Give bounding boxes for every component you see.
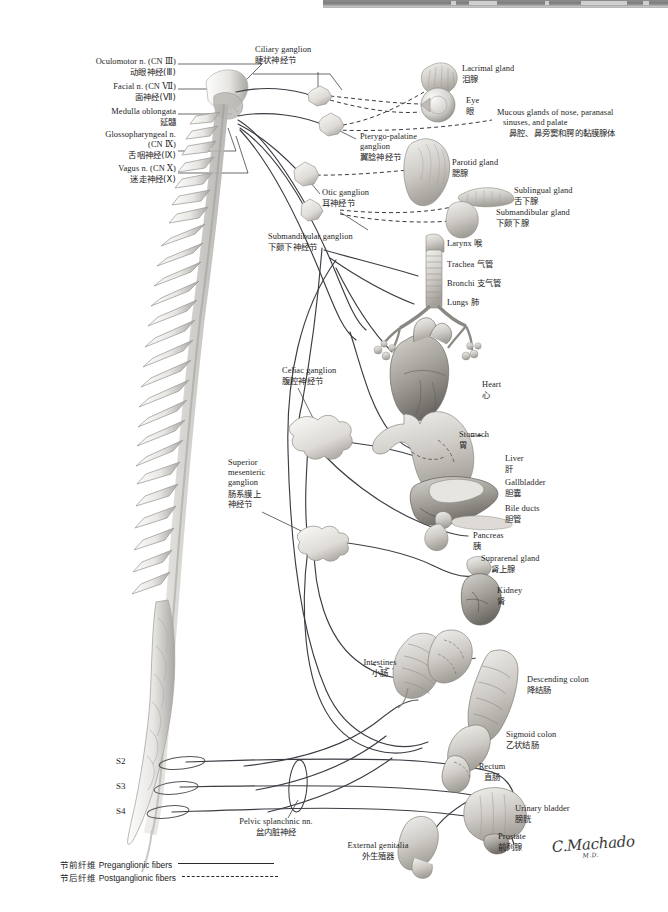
label-trachea-zh: 气管 [477,259,493,269]
label-heart-zh: 心 [482,390,501,400]
label-prostate: Prostate 前列腺 [498,832,526,852]
label-submandibular-ganglion: Submandibular ganglion 下颇下神经节 [268,232,353,252]
label-liver: Liver 肝 [505,454,524,474]
label-facial-nerve-en: Facial n. (CN Ⅶ) [30,82,176,92]
legend-postganglionic-en: Postganglionic fibers [99,873,176,883]
label-sublingual-gland-en: Sublingual gland [514,186,573,196]
label-superior-mesenteric-ganglion-en2: mesenteric [228,468,265,478]
label-stomach: Stomach 胃 [459,430,489,450]
celiac-ganglion-shape [289,415,352,459]
ciliary-ganglion-shape [308,86,332,106]
label-medulla-oblongata-zh: 延髓 [30,117,176,127]
label-gallbladder: Gallbladder 胆囊 [505,478,546,498]
label-trachea-line: Trachea 气管 [447,259,493,270]
label-lungs-line: Lungs 肺 [447,297,479,308]
label-sublingual-gland-zh: 舌下腺 [514,196,573,206]
label-descending-colon-zh: 降结肠 [527,685,589,695]
label-pterygopalatine-ganglion-en2: ganglion [360,142,417,152]
label-pelvic-splanchnic-nerves-en: Pelvic splanchnic nn. [224,817,328,827]
label-prostate-en: Prostate [498,832,526,842]
label-superior-mesenteric-ganglion-zh1: 肠系膜上 [228,489,265,499]
label-bronchi-en: Bronchi [447,279,475,288]
submandibular-ganglion-shape [301,199,323,221]
label-rectum-en: Rectum [468,762,516,772]
legend-solid-line-sample [178,863,274,864]
label-glossopharyngeal-nerve-zh: 舌咽神经(Ⅸ) [26,150,176,160]
eye-illustration [421,88,455,122]
label-larynx-en: Larynx [447,239,472,248]
label-glossopharyngeal-nerve: Glossopharyngeal n. (CN Ⅸ) 舌咽神经(Ⅸ) [26,130,176,161]
label-lungs-zh: 肺 [471,297,479,307]
label-kidney-en: Kidney [497,586,522,596]
label-submandibular-ganglion-en: Submandibular ganglion [268,232,353,242]
label-heart: Heart 心 [482,380,501,400]
legend: 节前纤维 Preganglionic fibers 节后纤维 Postgangl… [60,857,360,883]
label-medulla-oblongata-en: Medulla oblongata [30,107,176,117]
label-gallbladder-zh: 胆囊 [505,488,546,498]
label-submandibular-gland: Submandibular gland 下颇下腺 [496,208,570,228]
label-pelvic-splanchnic-nerves: Pelvic splanchnic nn. 盆内脏神经 [224,817,328,837]
label-suprarenal-gland-zh: 肾上腺 [491,564,540,574]
label-bile-ducts: Bile ducts 胆管 [505,504,540,524]
label-oculomotor-nerve: Oculomotor n. (CN Ⅲ) 动眼神经(Ⅲ) [30,57,176,77]
label-ciliary-ganglion-en: Ciliary ganglion [255,45,311,55]
figure-page: Oculomotor n. (CN Ⅲ) 动眼神经(Ⅲ) Facial n. (… [0,0,668,912]
label-rectum-zh: 直肠 [468,772,516,782]
label-sigmoid-colon-zh: 乙状结肠 [506,740,556,750]
label-lungs-en: Lungs [447,298,468,307]
label-mucous-glands: Mucous glands of nose, paranasal sinuses… [497,108,665,139]
label-otic-ganglion-zh: 耳神经节 [322,198,369,208]
label-eye: Eye 眼 [466,96,479,116]
label-pancreas-zh: 胰 [473,541,504,551]
label-trachea: Trachea 气管 [447,259,493,270]
label-superior-mesenteric-ganglion: Superior mesenteric ganglion 肠系膜上 神经节 [228,458,265,509]
label-otic-ganglion-en: Otic ganglion [322,188,369,198]
label-stomach-zh: 胃 [459,440,489,450]
legend-dashed-line-sample [182,876,278,877]
label-kidney-zh: 肾 [497,596,522,606]
organs-group [373,63,527,879]
label-intestines-en: Intestines [352,658,408,668]
label-sigmoid-colon-en: Sigmoid colon [506,730,556,740]
otic-ganglion-shape [294,162,319,186]
label-vagus-nerve-zh: 迷走神经(Ⅹ) [30,174,176,184]
label-submandibular-ganglion-zh: 下颇下神经节 [268,242,353,252]
label-bronchi: Bronchi 支气管 [447,278,501,289]
label-ciliary-ganglion-zh: 睫状神经节 [255,55,311,65]
label-otic-ganglion: Otic ganglion 耳神经节 [322,188,369,208]
label-sublingual-gland: Sublingual gland 舌下腺 [514,186,573,206]
legend-preganglionic-text: 节前纤维 Preganglionic fibers [60,858,172,870]
label-eye-zh: 眼 [466,106,479,116]
label-mucous-glands-en1: Mucous glands of nose, paranasal [497,108,665,118]
label-larynx: Larynx 喉 [447,238,482,249]
label-prostate-zh: 前列腺 [498,842,526,852]
legend-postganglionic-text: 节后纤维 Postganglionic fibers [60,871,176,883]
label-pelvic-splanchnic-nerves-zh: 盆内脏神经 [224,827,328,837]
label-pancreas-en: Pancreas [473,531,504,541]
label-eye-en: Eye [466,96,479,106]
label-suprarenal-gland-en: Suprarenal gland [481,554,540,564]
label-medulla-oblongata: Medulla oblongata 延髓 [30,107,176,127]
label-parotid-gland-en: Parotid gland [452,158,498,168]
label-mucous-glands-zh: 鼻腔、鼻旁窦和腭的黏膜腺体 [509,128,665,138]
label-urinary-bladder-en: Urinary bladder [515,804,570,814]
label-oculomotor-nerve-en: Oculomotor n. (CN Ⅲ) [30,57,176,67]
label-sigmoid-colon: Sigmoid colon 乙状结肠 [506,730,556,750]
label-facial-nerve: Facial n. (CN Ⅶ) 面神经(Ⅶ) [30,82,176,102]
label-trachea-en: Trachea [447,260,474,269]
legend-preganglionic-en: Preganglionic fibers [99,860,173,870]
label-submandibular-gland-en: Submandibular gland [496,208,570,218]
legend-postganglionic-zh: 节后纤维 [60,873,96,883]
label-parotid-gland: Parotid gland 腮腺 [452,158,498,178]
label-larynx-line: Larynx 喉 [447,238,482,249]
label-glossopharyngeal-nerve-en: Glossopharyngeal n. [26,130,176,140]
submandibular-gland-illustration [446,202,478,238]
label-bronchi-zh: 支气管 [477,278,501,288]
label-suprarenal-gland: Suprarenal gland 肾上腺 [481,554,540,574]
label-mucous-glands-en2: sinuses, and palate [503,118,665,128]
label-descending-colon: Descending colon 降结肠 [527,675,589,695]
label-celiac-ganglion-zh: 腹腔神经节 [282,376,336,386]
label-pterygopalatine-ganglion: Pterygo-palatine ganglion 翼腍神经节 [360,132,417,163]
label-heart-en: Heart [482,380,501,390]
label-vagus-nerve: Vagus n. (CN Ⅹ) 迷走神经(Ⅹ) [30,164,176,184]
